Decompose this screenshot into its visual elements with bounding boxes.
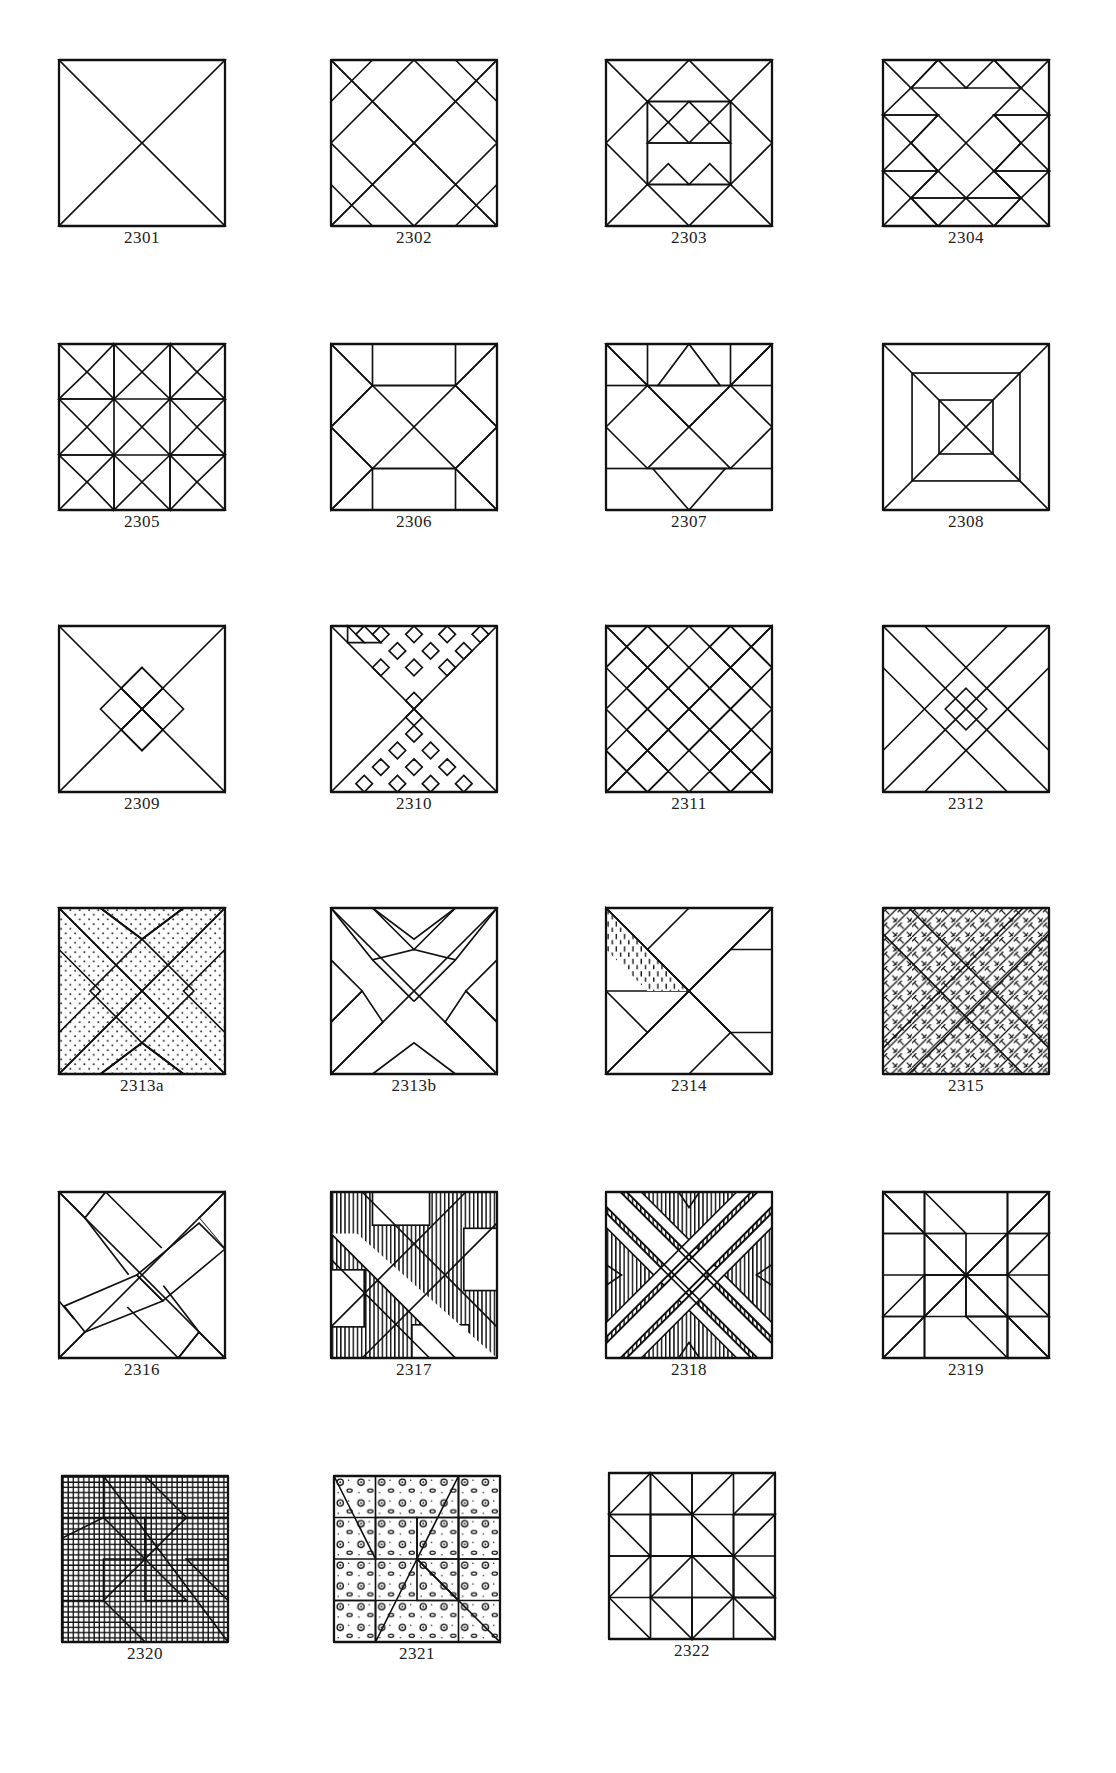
quilt-block-2308: 2308 <box>883 344 1049 532</box>
quilt-block-2303: 2303 <box>606 60 772 248</box>
block-label: 2306 <box>331 512 497 532</box>
quilt-block-2313b-drawing <box>331 908 497 1074</box>
quilt-block-2304-drawing <box>883 60 1049 226</box>
quilt-block-2318-drawing <box>606 1192 772 1358</box>
block-label: 2319 <box>883 1360 1049 1380</box>
quilt-block-2302-drawing <box>331 60 497 226</box>
quilt-block-2314-drawing <box>606 908 772 1074</box>
quilt-block-2305: 2305 <box>59 344 225 532</box>
block-label: 2321 <box>334 1644 500 1664</box>
quilt-block-2313a: 2313a <box>59 908 225 1096</box>
quilt-block-2316-drawing <box>59 1192 225 1358</box>
quilt-block-2307: 2307 <box>606 344 772 532</box>
quilt-block-2322-drawing <box>609 1473 775 1639</box>
block-label: 2315 <box>883 1076 1049 1096</box>
block-label: 2308 <box>883 512 1049 532</box>
quilt-block-2320-drawing <box>62 1476 228 1642</box>
quilt-block-2312: 2312 <box>883 626 1049 814</box>
quilt-block-2311-drawing <box>606 626 772 792</box>
block-label: 2310 <box>331 794 497 814</box>
block-label: 2317 <box>331 1360 497 1380</box>
quilt-block-2304: 2304 <box>883 60 1049 248</box>
quilt-block-2315: 2315 <box>883 908 1049 1096</box>
quilt-block-2317-drawing <box>331 1192 497 1358</box>
block-label: 2313a <box>59 1076 225 1096</box>
block-label: 2302 <box>331 228 497 248</box>
quilt-block-2311: 2311 <box>606 626 772 814</box>
block-label: 2309 <box>59 794 225 814</box>
quilt-block-2309-drawing <box>59 626 225 792</box>
quilt-block-2310-drawing <box>331 626 497 792</box>
quilt-block-2305-drawing <box>59 344 225 510</box>
quilt-block-2310: 2310 <box>331 626 497 814</box>
block-label: 2301 <box>59 228 225 248</box>
block-label: 2303 <box>606 228 772 248</box>
block-label: 2313b <box>331 1076 497 1096</box>
block-label: 2307 <box>606 512 772 532</box>
quilt-block-2317: 2317 <box>331 1192 497 1380</box>
quilt-block-2315-drawing <box>883 908 1049 1074</box>
block-label: 2314 <box>606 1076 772 1096</box>
quilt-block-2309: 2309 <box>59 626 225 814</box>
block-label: 2322 <box>609 1641 775 1661</box>
quilt-block-2319-drawing <box>883 1192 1049 1358</box>
quilt-block-2307-drawing <box>606 344 772 510</box>
quilt-block-2302: 2302 <box>331 60 497 248</box>
quilt-block-2316: 2316 <box>59 1192 225 1380</box>
block-label: 2316 <box>59 1360 225 1380</box>
quilt-block-2321: 2321 <box>334 1476 500 1664</box>
block-label: 2312 <box>883 794 1049 814</box>
quilt-block-2312-drawing <box>883 626 1049 792</box>
quilt-block-2313b: 2313b <box>331 908 497 1096</box>
block-label: 2318 <box>606 1360 772 1380</box>
quilt-block-2318: 2318 <box>606 1192 772 1380</box>
block-label: 2320 <box>62 1644 228 1664</box>
quilt-block-2321-drawing <box>334 1476 500 1642</box>
quilt-block-2314: 2314 <box>606 908 772 1096</box>
block-label: 2304 <box>883 228 1049 248</box>
quilt-block-2303-drawing <box>606 60 772 226</box>
quilt-block-2306: 2306 <box>331 344 497 532</box>
quilt-block-2319: 2319 <box>883 1192 1049 1380</box>
quilt-block-2313a-drawing <box>59 908 225 1074</box>
quilt-block-2322: 2322 <box>609 1473 775 1661</box>
quilt-block-2320: 2320 <box>62 1476 228 1664</box>
block-label: 2311 <box>606 794 772 814</box>
quilt-block-2306-drawing <box>331 344 497 510</box>
block-label: 2305 <box>59 512 225 532</box>
quilt-block-2301: 2301 <box>59 60 225 248</box>
quilt-block-2301-drawing <box>59 60 225 226</box>
quilt-block-2308-drawing <box>883 344 1049 510</box>
